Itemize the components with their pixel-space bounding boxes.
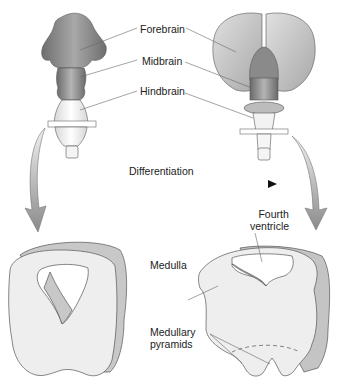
label-hindbrain: Hindbrain bbox=[140, 85, 185, 97]
early-midbrain bbox=[57, 68, 86, 100]
label-fourth-ventricle-line2: ventricle bbox=[250, 220, 289, 232]
differentiation-arrow bbox=[65, 180, 277, 188]
early-section-plane bbox=[48, 121, 96, 127]
medulla-cross-section bbox=[199, 246, 330, 376]
arrowhead-icon bbox=[268, 180, 277, 188]
label-midbrain: Midbrain bbox=[142, 55, 182, 67]
label-medullary-pyramids: Medullary pyramids bbox=[150, 326, 196, 350]
label-medullary-pyramids-line1: Medullary bbox=[150, 326, 196, 338]
right-curved-arrow bbox=[292, 136, 327, 230]
early-hindbrain-cross-section bbox=[9, 242, 127, 376]
late-brain bbox=[213, 13, 315, 160]
label-medullary-pyramids-line2: pyramids bbox=[150, 338, 196, 350]
label-medulla: Medulla bbox=[150, 259, 187, 271]
late-section-plane bbox=[240, 129, 288, 134]
label-differentiation: Differentiation bbox=[129, 165, 194, 177]
label-fourth-ventricle: Fourth ventricle bbox=[250, 208, 289, 232]
late-hindbrain-pons bbox=[244, 102, 284, 114]
early-neural-tube bbox=[42, 13, 107, 158]
label-fourth-ventricle-line1: Fourth bbox=[250, 208, 289, 220]
label-forebrain: Forebrain bbox=[140, 23, 185, 35]
early-forebrain bbox=[42, 13, 107, 68]
left-curved-arrow bbox=[25, 128, 46, 232]
